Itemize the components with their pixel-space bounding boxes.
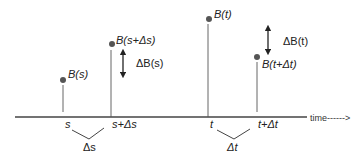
- point-Bt-dt-dot: [254, 54, 260, 60]
- point-Bt-dt-label: B(t+Δt): [262, 58, 297, 70]
- interval-dt-bracket: [217, 129, 250, 139]
- interval-ds-label: Δs: [83, 141, 96, 153]
- increment-Bt-label: ΔB(t): [283, 35, 308, 47]
- tick-label-t-dt: t+Δt: [258, 118, 279, 130]
- interval-ds-bracket: [72, 128, 104, 139]
- point-Bs-dot: [60, 77, 66, 83]
- point-Bt-dot: [206, 16, 212, 22]
- tick-label-s: s: [65, 118, 71, 130]
- tick-label-t: t: [210, 118, 214, 130]
- point-Bs-ds-dot: [109, 41, 115, 47]
- point-Bs-ds-label: B(s+Δs): [116, 34, 156, 46]
- point-Bs-label: B(s): [68, 68, 89, 80]
- tick-label-s-ds: s+Δs: [112, 118, 137, 130]
- increment-Bs-label: ΔB(s): [136, 57, 164, 69]
- brownian-motion-diagram: time------> B(s) B(s+Δs) ΔB(s) B(t) B(t+…: [0, 0, 359, 163]
- interval-dt-label: Δt: [226, 141, 238, 153]
- point-Bt-label: B(t): [214, 8, 232, 20]
- time-axis-label: time------>: [310, 113, 350, 123]
